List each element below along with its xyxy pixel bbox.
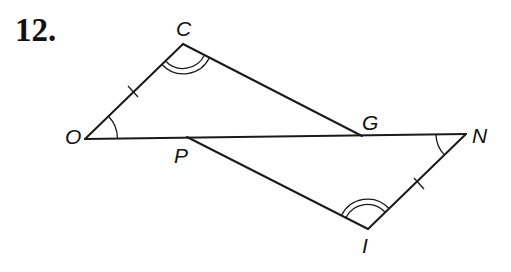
segment-pi <box>187 137 368 229</box>
angle-arc-n <box>436 134 445 155</box>
angle-arc-o <box>109 116 118 138</box>
segment-on <box>85 134 466 139</box>
segment-oc <box>85 44 183 139</box>
angle-arc-c-inner <box>166 55 205 68</box>
angle-arc-c-outer <box>162 58 210 74</box>
vertex-label-p: P <box>174 145 188 166</box>
vertex-label-g: G <box>362 112 378 133</box>
angle-arc-i-inner <box>346 204 385 217</box>
vertex-label-o: O <box>65 126 81 147</box>
vertex-label-i: I <box>362 235 368 256</box>
vertex-label-n: N <box>472 125 487 146</box>
vertex-label-c: C <box>176 18 191 39</box>
